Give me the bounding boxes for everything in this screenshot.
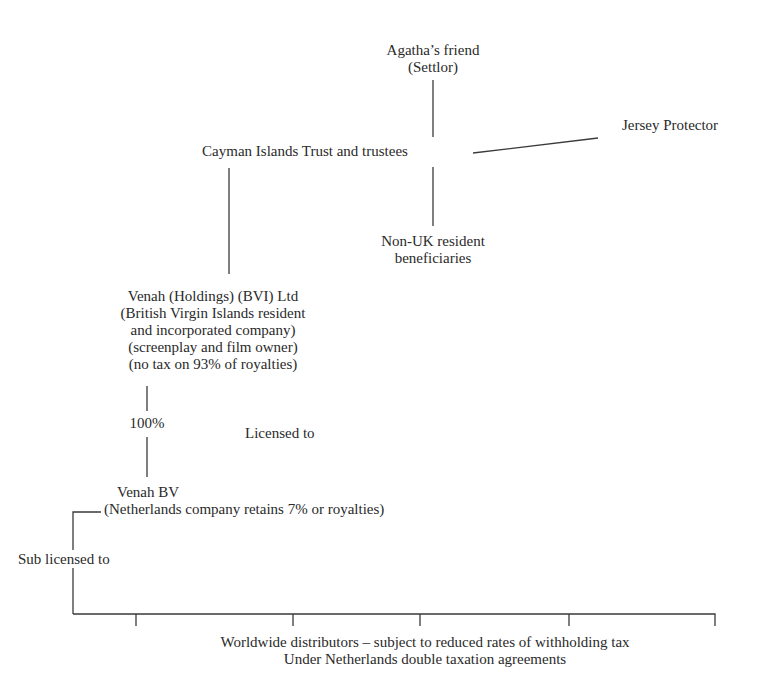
- holdings-line-3: and incorporated company): [83, 322, 343, 339]
- beneficiaries-line-2: beneficiaries: [353, 250, 513, 267]
- trust-node: Cayman Islands Trust and trustees: [150, 143, 460, 160]
- protector-node: Jersey Protector: [595, 117, 745, 134]
- distributors-line-1: Worldwide distributors – subject to redu…: [115, 634, 735, 651]
- distributors-line-2: Under Netherlands double taxation agreem…: [115, 651, 735, 668]
- holdings-line-5: (no tax on 93% of royalties): [83, 356, 343, 373]
- sublicensed-label: Sub licensed to: [18, 551, 168, 568]
- settlor-name: Agatha’s friend: [353, 42, 513, 59]
- beneficiaries-line-1: Non-UK resident: [353, 233, 513, 250]
- bv-name: Venah BV: [104, 484, 484, 501]
- bv-description: (Netherlands company retains 7% or royal…: [104, 501, 484, 518]
- beneficiaries-node: Non-UK resident beneficiaries: [353, 233, 513, 267]
- holdings-line-4: (screenplay and film owner): [83, 339, 343, 356]
- holdings-line-2: (British Virgin Islands resident: [83, 305, 343, 322]
- holdings-node: Venah (Holdings) (BVI) Ltd (British Virg…: [83, 288, 343, 373]
- holdings-line-1: Venah (Holdings) (BVI) Ltd: [83, 288, 343, 305]
- settlor-role: (Settlor): [353, 59, 513, 76]
- distributors-node: Worldwide distributors – subject to redu…: [115, 634, 735, 668]
- ownership-label: 100%: [117, 415, 177, 432]
- bv-node: Venah BV (Netherlands company retains 7%…: [104, 484, 484, 518]
- licensed-label: Licensed to: [245, 425, 355, 442]
- settlor-node: Agatha’s friend (Settlor): [353, 42, 513, 76]
